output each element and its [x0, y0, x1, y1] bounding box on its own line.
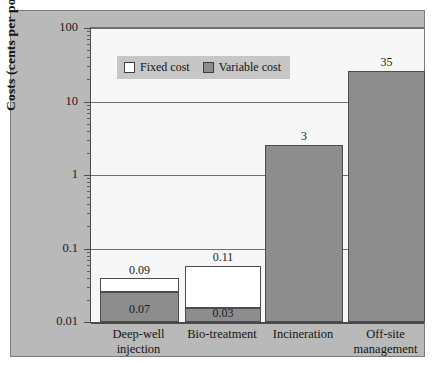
y-tick-minor — [87, 66, 91, 67]
y-tick-minor — [87, 109, 91, 110]
gray-square-icon — [203, 62, 214, 73]
bar-total-label: 0.11 — [185, 250, 261, 265]
y-tick-minor — [87, 31, 91, 32]
y-tick-minor — [87, 131, 91, 132]
category-label-incineration: Incineration — [258, 327, 348, 342]
category-label-off-site-management: Off-site management — [338, 327, 433, 357]
bar-segment-variable-cost: 0.03 — [185, 308, 261, 322]
category-label-bio-treatment: Bio-treatment — [175, 327, 269, 342]
y-tick-minor — [87, 50, 91, 51]
legend-label: Variable cost — [219, 60, 281, 75]
bar-total-label: 35 — [348, 55, 425, 70]
y-tick-minor — [87, 153, 91, 154]
bar-segment-fixed-cost — [100, 278, 179, 292]
y-tick-minor — [87, 213, 91, 214]
category-label-deep-well-injection: Deep-well injection — [90, 327, 187, 357]
y-tick-minor — [87, 35, 91, 36]
bar-segment-label: 0.07 — [101, 302, 178, 317]
legend-item-fixed-cost: Fixed cost — [124, 60, 190, 75]
y-tick-minor — [87, 287, 91, 288]
y-tick-minor — [87, 271, 91, 272]
y-tick-minor — [87, 265, 91, 266]
y-tick-minor — [87, 260, 91, 261]
y-tick-minor — [87, 79, 91, 80]
legend-label: Fixed cost — [140, 60, 190, 75]
bar-segment-variable-cost — [348, 71, 425, 322]
y-tick-label: 0.01 — [56, 314, 78, 329]
y-tick-label: 10 — [66, 93, 79, 108]
y-tick-minor — [87, 118, 91, 119]
y-tick-major — [84, 28, 91, 29]
bar-total-label: 0.09 — [100, 263, 179, 278]
y-tick-major — [84, 175, 91, 176]
gridline-100 — [91, 28, 424, 29]
y-tick-minor — [87, 182, 91, 183]
y-tick-minor — [87, 44, 91, 45]
y-tick-minor — [87, 278, 91, 279]
y-tick-minor — [87, 113, 91, 114]
y-tick-label: 100 — [59, 20, 78, 35]
y-tick-minor — [87, 178, 91, 179]
x-axis-line — [91, 322, 424, 324]
y-tick-minor — [87, 256, 91, 257]
y-tick-minor — [87, 197, 91, 198]
y-axis-title: Costs (cents per pound) — [3, 0, 19, 111]
y-tick-minor — [87, 140, 91, 141]
y-tick-minor — [87, 300, 91, 301]
y-tick-minor — [87, 191, 91, 192]
y-tick-major — [84, 249, 91, 250]
bar-segment-label: 0.03 — [186, 306, 260, 321]
bar-segment-fixed-cost — [185, 266, 261, 308]
bar-total-label: 3 — [265, 129, 343, 144]
y-tick-minor — [87, 105, 91, 106]
y-tick-minor — [87, 124, 91, 125]
y-tick-minor — [87, 186, 91, 187]
chart-legend: Fixed cost Variable cost — [117, 56, 290, 79]
y-tick-minor — [87, 252, 91, 253]
y-tick-label: 1 — [72, 167, 78, 182]
y-tick-minor — [87, 57, 91, 58]
y-tick-major — [84, 322, 91, 323]
bar-segment-variable-cost: 0.07 — [100, 292, 179, 322]
white-square-icon — [124, 62, 135, 73]
y-tick-label: 0.1 — [62, 240, 78, 255]
bar-segment-variable-cost — [265, 145, 343, 322]
y-tick-minor — [87, 226, 91, 227]
chart-figure: Costs (cents per pound) 0.01 0.1 1 10 10… — [10, 10, 425, 357]
y-tick-major — [84, 102, 91, 103]
y-tick-minor — [87, 39, 91, 40]
plot-area: 0.09 0.07 0.11 0.03 3 35 Fixed cost — [90, 27, 424, 322]
y-tick-minor — [87, 204, 91, 205]
legend-item-variable-cost: Variable cost — [203, 60, 281, 75]
